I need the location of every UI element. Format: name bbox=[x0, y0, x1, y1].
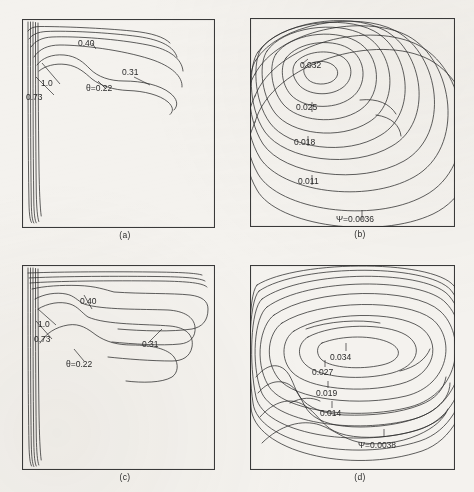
panel-d-plot: 0.034 0.027 0.019 0.014 Ψ=0.0038 bbox=[250, 265, 455, 470]
panel-d-contours bbox=[250, 266, 455, 461]
contour-label-a-10: 1.0 bbox=[41, 78, 53, 88]
panel-a-plot: 0.40 0.31 θ=0.22 1.0 0.73 bbox=[22, 19, 215, 228]
panel-a-labels: 0.40 0.31 θ=0.22 1.0 0.73 bbox=[26, 38, 139, 102]
panel-b-frame bbox=[251, 19, 455, 227]
panel-c-leader-lines bbox=[36, 295, 162, 361]
contour-label-c-10: 1.0 bbox=[38, 319, 50, 329]
figure-container: 0.40 0.31 θ=0.22 1.0 0.73 (a) bbox=[0, 0, 474, 492]
panel-b-plot: 0.032 0.025 0.018 0.011 Ψ=0.0036 bbox=[250, 18, 455, 227]
panel-c-frame bbox=[23, 266, 215, 470]
panel-b-labels: 0.032 0.025 0.018 0.011 Ψ=0.0036 bbox=[294, 60, 374, 224]
panel-c-caption: (c) bbox=[95, 472, 155, 482]
contour-label-c-031: 0.31 bbox=[142, 339, 159, 349]
contour-label-a-040: 0.40 bbox=[78, 38, 95, 48]
panel-d-caption: (d) bbox=[330, 472, 390, 482]
contour-label-d-0034: 0.034 bbox=[330, 352, 352, 362]
panel-a-contours bbox=[28, 22, 183, 223]
panel-c: 0.40 0.31 1.0 0.73 θ=0.22 bbox=[22, 265, 215, 470]
contour-label-a-073: 0.73 bbox=[26, 92, 43, 102]
contour-label-d-0027: 0.027 bbox=[312, 367, 334, 377]
contour-label-d-psi: Ψ=0.0038 bbox=[358, 440, 396, 450]
contour-label-b-0011: 0.011 bbox=[298, 176, 319, 186]
panel-b-contours bbox=[250, 21, 455, 227]
panel-b: 0.032 0.025 0.018 0.011 Ψ=0.0036 bbox=[250, 18, 455, 227]
contour-label-b-0025: 0.025 bbox=[296, 102, 318, 112]
panel-c-plot: 0.40 0.31 1.0 0.73 θ=0.22 bbox=[22, 265, 215, 470]
contour-label-b-psi: Ψ=0.0036 bbox=[336, 214, 374, 224]
panel-a-frame bbox=[23, 20, 215, 228]
contour-label-d-0014: 0.014 bbox=[320, 408, 342, 418]
panel-d: 0.034 0.027 0.019 0.014 Ψ=0.0038 bbox=[250, 265, 455, 470]
panel-a: 0.40 0.31 θ=0.22 1.0 0.73 bbox=[22, 19, 215, 228]
contour-label-d-0019: 0.019 bbox=[316, 388, 338, 398]
contour-label-b-0032: 0.032 bbox=[300, 60, 322, 70]
panel-c-contours bbox=[28, 268, 208, 467]
panel-a-caption: (a) bbox=[95, 230, 155, 240]
panel-b-caption: (b) bbox=[330, 229, 390, 239]
contour-label-c-073: 0.73 bbox=[34, 334, 51, 344]
contour-label-c-040: 0.40 bbox=[80, 296, 97, 306]
contour-label-a-theta: θ=0.22 bbox=[86, 83, 113, 93]
contour-label-c-theta: θ=0.22 bbox=[66, 359, 93, 369]
contour-label-b-0018: 0.018 bbox=[294, 137, 316, 147]
contour-label-a-031: 0.31 bbox=[122, 67, 139, 77]
